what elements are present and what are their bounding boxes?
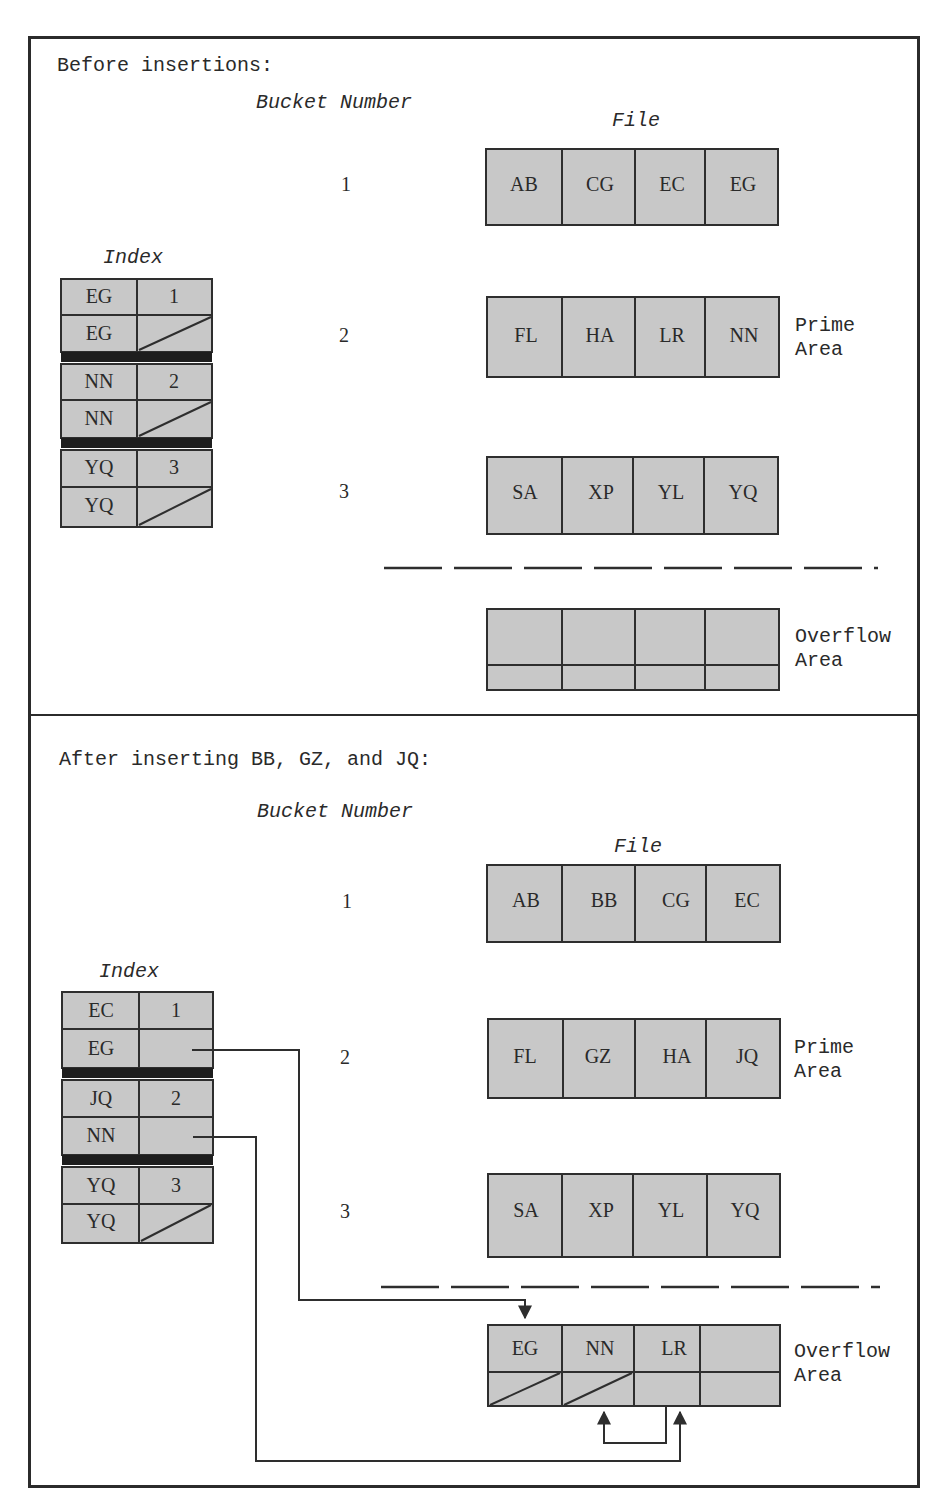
- after-b2-rec-2: HA: [663, 1045, 692, 1067]
- before-b1-rec-1: CG: [586, 173, 614, 195]
- after-b1-rec-1: BB: [591, 889, 618, 911]
- before-index-key-1: EG: [86, 322, 113, 344]
- after-index-key-2: JQ: [90, 1087, 113, 1109]
- pointer-arrow-lr-to-nn: [604, 1406, 666, 1443]
- after-b1-rec-0: AB: [512, 889, 540, 911]
- before-index-ptr-4: 3: [169, 456, 179, 478]
- after-index-key-3: NN: [87, 1124, 116, 1146]
- before-index-ptr-2: 2: [169, 370, 179, 392]
- before-index-key-2: NN: [85, 370, 114, 392]
- after-bucket-1: AB BB CG EC: [487, 865, 780, 942]
- before-bucket-1: AB CG EC EG: [486, 149, 778, 225]
- after-b2-rec-0: FL: [513, 1045, 536, 1067]
- bucket-separator: [62, 1155, 213, 1165]
- pointer-arrow-eg-to-overflow: [192, 1050, 525, 1318]
- before-bucket-2: FL HA LR NN: [487, 297, 779, 377]
- before-b2-rec-0: FL: [514, 324, 537, 346]
- after-index-ptr-2: 2: [171, 1087, 181, 1109]
- after-overflow-rec-0: EG: [512, 1337, 539, 1359]
- before-b3-rec-0: SA: [512, 481, 538, 503]
- before-bucket-3: SA XP YL YQ: [487, 457, 778, 534]
- after-overflow-area: EG NN LR: [488, 1325, 780, 1406]
- after-bucket-3: SA XP YL YQ: [488, 1174, 780, 1257]
- bucket-separator: [62, 1068, 213, 1078]
- after-b1-rec-2: CG: [662, 889, 690, 911]
- bucket-separator: [61, 352, 212, 362]
- after-b3-rec-0: SA: [513, 1199, 539, 1221]
- before-index-key-3: NN: [85, 407, 114, 429]
- after-overflow-rec-1: NN: [586, 1337, 615, 1359]
- indexed-sequential-file-diagram: EG 1 EG NN 2 NN YQ 3 YQ AB CG EC EG: [0, 0, 946, 1511]
- before-index-key-5: YQ: [85, 494, 114, 516]
- before-overflow-area: [487, 609, 779, 690]
- before-b1-rec-2: EC: [659, 173, 685, 195]
- before-b1-rec-3: EG: [730, 173, 757, 195]
- after-index-ptr-0: 1: [171, 999, 181, 1021]
- after-bucket-2: FL GZ HA JQ: [488, 1019, 780, 1098]
- after-b2-rec-1: GZ: [585, 1045, 612, 1067]
- after-overflow-rec-2: LR: [661, 1337, 687, 1359]
- before-b2-rec-1: HA: [586, 324, 615, 346]
- after-index-key-4: YQ: [87, 1174, 116, 1196]
- after-index-table: EC 1 EG JQ 2 NN YQ 3 YQ: [62, 992, 213, 1243]
- before-b2-rec-3: NN: [730, 324, 759, 346]
- after-b3-rec-3: YQ: [731, 1199, 760, 1221]
- after-b2-rec-3: JQ: [736, 1045, 759, 1067]
- after-index-key-5: YQ: [87, 1210, 116, 1232]
- before-index-table: EG 1 EG NN 2 NN YQ 3 YQ: [61, 279, 212, 527]
- bucket-separator: [61, 438, 212, 448]
- after-index-key-0: EC: [88, 999, 114, 1021]
- before-b1-rec-0: AB: [510, 173, 538, 195]
- before-b3-rec-3: YQ: [729, 481, 758, 503]
- after-index-key-1: EG: [88, 1037, 115, 1059]
- after-index-ptr-4: 3: [171, 1174, 181, 1196]
- after-b1-rec-3: EC: [734, 889, 760, 911]
- before-b3-rec-2: YL: [658, 481, 685, 503]
- before-b3-rec-1: XP: [588, 481, 614, 503]
- before-index-key-0: EG: [86, 285, 113, 307]
- after-b3-rec-2: YL: [658, 1199, 685, 1221]
- before-index-ptr-0: 1: [169, 285, 179, 307]
- after-b3-rec-1: XP: [588, 1199, 614, 1221]
- before-b2-rec-2: LR: [659, 324, 685, 346]
- before-index-key-4: YQ: [85, 456, 114, 478]
